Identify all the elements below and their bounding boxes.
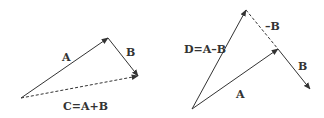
- vector-c-sum: [21, 76, 138, 98]
- label-a-right: A: [235, 88, 245, 101]
- label-d-difference: D=A–B: [184, 43, 226, 56]
- label-c-sum: C=A+B: [63, 100, 108, 113]
- label-b-left: B: [126, 46, 135, 59]
- label-b-right: B: [298, 60, 307, 73]
- vector-diagram: A B C=A+B D=A–B –B B A: [0, 0, 324, 118]
- label-neg-b: –B: [265, 20, 280, 33]
- vector-a-right: [192, 49, 278, 109]
- label-a-left: A: [61, 51, 71, 64]
- addition-diagram: A B C=A+B: [21, 38, 138, 113]
- vector-a-left: [21, 38, 108, 98]
- subtraction-diagram: D=A–B –B B A: [184, 10, 310, 109]
